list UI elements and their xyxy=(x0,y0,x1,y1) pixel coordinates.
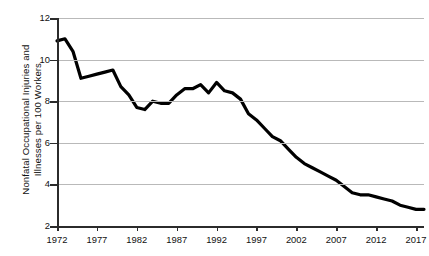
y-axis-tick xyxy=(50,226,58,228)
x-axis-tick xyxy=(177,226,179,231)
y-axis-tick xyxy=(50,18,58,20)
y-axis-tick-label: 10 xyxy=(20,54,50,65)
y-axis-tick-label: 6 xyxy=(20,137,50,148)
x-axis-tick-label: 1982 xyxy=(117,234,157,245)
gridline-y xyxy=(57,18,424,19)
x-axis-tick-label: 2002 xyxy=(276,234,316,245)
y-axis-tick-label: 8 xyxy=(20,95,50,106)
series-line xyxy=(57,18,424,226)
x-axis-tick xyxy=(256,226,258,231)
y-axis-tick xyxy=(50,60,58,62)
y-axis-tick-label: 12 xyxy=(20,12,50,23)
y-axis-tick-label: 4 xyxy=(20,178,50,189)
chart-figure: Nonfatal Occupational Injuries andIllnes… xyxy=(0,0,429,256)
x-axis-tick-label: 2007 xyxy=(316,234,356,245)
x-axis-tick-label: 1972 xyxy=(37,234,77,245)
x-axis-line xyxy=(57,226,424,228)
x-axis-tick xyxy=(296,226,298,231)
gridline-y xyxy=(57,143,424,144)
y-axis-tick xyxy=(50,101,58,103)
x-axis-tick xyxy=(416,226,418,231)
gridline-y xyxy=(57,101,424,102)
y-axis-tick xyxy=(50,184,58,186)
x-axis-tick xyxy=(97,226,99,231)
x-axis-tick-label: 2017 xyxy=(396,234,429,245)
gridline-y xyxy=(57,184,424,185)
x-axis-tick-label: 1977 xyxy=(77,234,117,245)
x-axis-tick-label: 1992 xyxy=(197,234,237,245)
y-axis-tick xyxy=(50,143,58,145)
x-axis-tick xyxy=(137,226,139,231)
y-axis-tick-label: 2 xyxy=(20,220,50,231)
x-axis-tick-label: 1997 xyxy=(236,234,276,245)
x-axis-tick xyxy=(217,226,219,231)
gridline-y xyxy=(57,60,424,61)
x-axis-tick-label: 1987 xyxy=(157,234,197,245)
x-axis-tick xyxy=(336,226,338,231)
plot-area xyxy=(57,18,424,226)
y-axis-tick-labels: 12108642 xyxy=(14,0,50,256)
x-axis-tick xyxy=(376,226,378,231)
y-axis-line xyxy=(57,18,59,227)
x-axis-tick-label: 2012 xyxy=(356,234,396,245)
